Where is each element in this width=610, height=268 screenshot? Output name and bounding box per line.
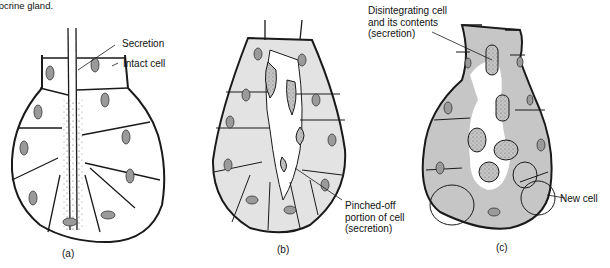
annotation-new-cell: New cell xyxy=(560,193,598,205)
panel-c-gland xyxy=(423,25,565,229)
annotation-pinched-off-portion: Pinched-off portion of cell (secretion) xyxy=(345,200,404,235)
panel-b-gland xyxy=(213,20,345,232)
panel-label-b: (b) xyxy=(277,244,289,255)
panel-label-a: (a) xyxy=(62,248,74,259)
annotation-disintegrating-cell: Disintegrating cell and its contents (se… xyxy=(368,5,447,40)
annotation-secretion: Secretion xyxy=(122,38,164,50)
annotation-intact-cell: Intact cell xyxy=(123,58,165,70)
holocrine-gland-diagram xyxy=(0,0,610,268)
panel-label-c: (c) xyxy=(496,242,508,253)
